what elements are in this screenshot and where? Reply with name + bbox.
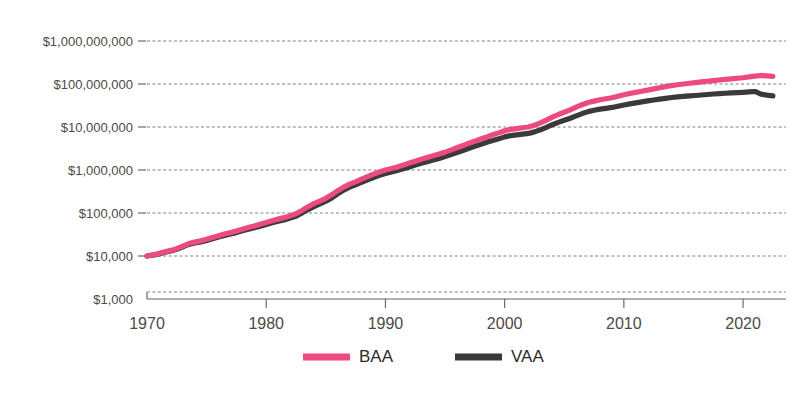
legend-label-baa: BAA: [359, 347, 394, 366]
chart-legend: BAAVAA: [303, 347, 544, 366]
y-axis-tick-label: $1,000,000,000: [43, 34, 133, 49]
x-axis-tick-label: 1980: [248, 315, 284, 332]
chart-container: $1,000$10,000$100,000$1,000,000$10,000,0…: [0, 0, 807, 396]
x-axis-tick-label: 2020: [725, 315, 761, 332]
growth-of-10000-log-line-chart: $1,000$10,000$100,000$1,000,000$10,000,0…: [0, 0, 807, 396]
y-axis-tick-label: $1,000,000: [68, 163, 133, 178]
legend-label-vaa: VAA: [511, 347, 544, 366]
data-series-group: [147, 75, 773, 256]
x-axis-tick-label: 2000: [487, 315, 523, 332]
x-axis: [147, 292, 786, 308]
y-axis-tick-label: $100,000: [79, 206, 133, 221]
x-axis-tick-labels: 197019801990200020102020: [129, 315, 761, 332]
x-axis-tick-label: 2010: [606, 315, 642, 332]
y-axis-tick-label: $10,000,000: [61, 120, 133, 135]
series-line-baa: [147, 75, 773, 256]
y-axis-tick-labels: $1,000$10,000$100,000$1,000,000$10,000,0…: [43, 34, 133, 307]
y-axis-tick-label: $10,000: [86, 249, 133, 264]
y-axis-tick-label: $100,000,000: [53, 77, 133, 92]
x-axis-tick-label: 1970: [129, 315, 165, 332]
x-axis-tick-label: 1990: [368, 315, 404, 332]
y-axis-tick-label: $1,000: [93, 292, 133, 307]
